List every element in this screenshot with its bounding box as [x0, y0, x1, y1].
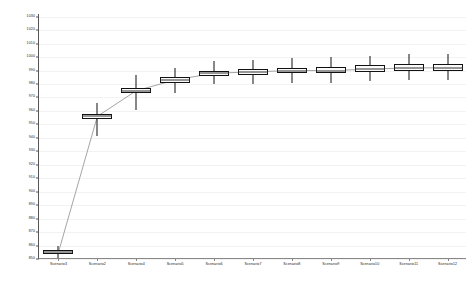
x-tick-mark [136, 258, 137, 261]
median-marker [121, 90, 151, 91]
x-tick-label: Scenario11 [399, 263, 418, 267]
y-tick-label: 960 [29, 109, 35, 113]
x-tick-label: Scenario4 [128, 263, 145, 267]
x-tick-label: Scenario6 [206, 263, 223, 267]
median-marker [394, 67, 424, 68]
y-tick-label: 880 [29, 217, 35, 221]
box-series [39, 14, 466, 258]
y-tick-label: 1010 [27, 42, 35, 46]
y-tick-label: 930 [29, 150, 35, 154]
y-tick-label: 910 [29, 176, 35, 180]
median-marker [277, 70, 307, 71]
median-marker [433, 67, 463, 68]
y-tick-label: 970 [29, 96, 35, 100]
median-marker [316, 70, 346, 71]
x-tick-mark [97, 258, 98, 261]
y-tick-label: 1000 [27, 55, 35, 59]
y-tick-label: 1030 [27, 15, 35, 19]
median-marker [238, 71, 268, 72]
x-tick-mark [331, 258, 332, 261]
x-tick-label: Scenario8 [283, 263, 300, 267]
plot-area: 1030102010101000990980970960950940930920… [38, 14, 466, 259]
x-tick-label: Scenario5 [167, 263, 184, 267]
y-tick-label: 950 [29, 123, 35, 127]
y-tick-label: 1020 [27, 28, 35, 32]
x-tick-label: Scenario7 [244, 263, 261, 267]
y-tick-label: 860 [29, 244, 35, 248]
y-tick-label: 870 [29, 230, 35, 234]
y-tick-label: 850 [29, 257, 35, 261]
median-marker [199, 73, 229, 74]
median-marker [43, 252, 73, 253]
x-tick-label: Scenario3 [50, 263, 67, 267]
whisker [97, 103, 98, 137]
median-marker [355, 69, 385, 70]
x-tick-label: Scenario2 [89, 263, 106, 267]
x-tick-mark [292, 258, 293, 261]
x-tick-label: Scenario10 [360, 263, 379, 267]
x-tick-mark [175, 258, 176, 261]
y-tick-label: 900 [29, 190, 35, 194]
x-tick-label: Scenario9 [322, 263, 339, 267]
boxplot-chart: 1030102010101000990980970960950940930920… [0, 0, 476, 291]
x-tick-mark [370, 258, 371, 261]
median-marker [160, 79, 190, 80]
y-tick-label: 920 [29, 163, 35, 167]
y-tick-label: 890 [29, 203, 35, 207]
y-tick-label: 990 [29, 69, 35, 73]
y-tick-label: 980 [29, 82, 35, 86]
x-tick-mark [58, 258, 59, 261]
x-tick-mark [214, 258, 215, 261]
x-tick-mark [448, 258, 449, 261]
y-tick-label: 940 [29, 136, 35, 140]
x-tick-mark [253, 258, 254, 261]
x-tick-label: Scenario12 [438, 263, 457, 267]
y-tick-mark [36, 259, 39, 260]
median-marker [82, 116, 112, 117]
x-tick-mark [409, 258, 410, 261]
